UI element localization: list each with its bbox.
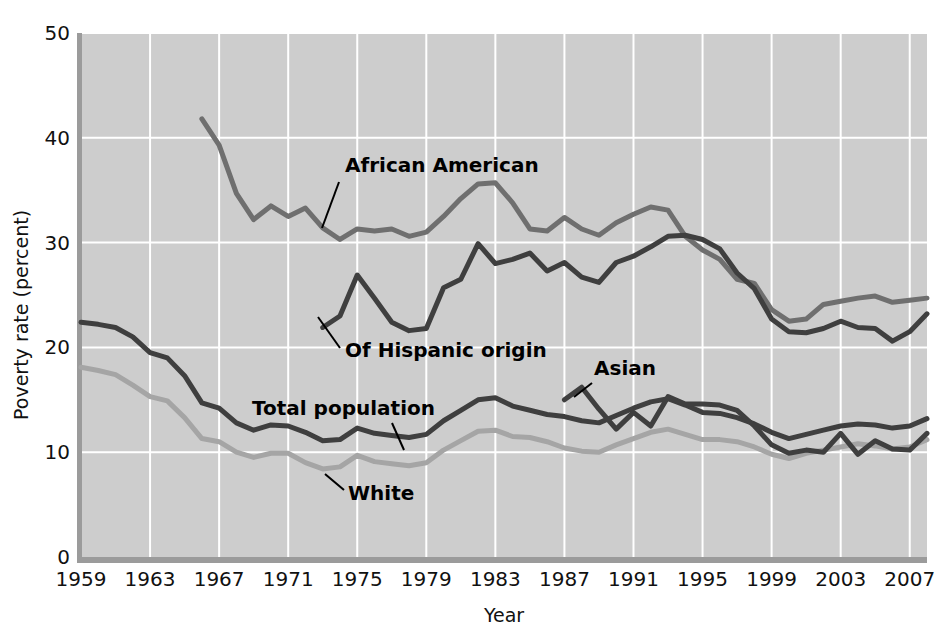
total-population-label: Total population	[252, 396, 435, 420]
x-tick-label: 1999	[746, 567, 797, 591]
y-tick-label: 10	[45, 440, 70, 464]
x-tick-label: 1983	[470, 567, 521, 591]
asian-label: Asian	[594, 356, 656, 380]
x-tick-label: 1959	[56, 567, 107, 591]
x-tick-label: 2003	[815, 567, 866, 591]
x-tick-label: 1995	[677, 567, 728, 591]
plot-background	[81, 33, 927, 558]
of-hispanic-origin-label: Of Hispanic origin	[345, 338, 547, 362]
chart-canvas: African AmericanOf Hispanic originTotal …	[0, 0, 952, 632]
y-tick-label: 0	[57, 545, 70, 569]
african-american-label: African American	[345, 153, 539, 177]
y-axis-title: Poverty rate (percent)	[10, 210, 32, 420]
white-label: White	[348, 481, 414, 505]
x-tick-label: 1971	[263, 567, 314, 591]
y-tick-label: 40	[45, 126, 70, 150]
y-tick-label: 30	[45, 231, 70, 255]
x-axis-title: Year	[483, 604, 524, 626]
plot-left-edge-shadow	[77, 33, 82, 562]
x-tick-label: 1987	[539, 567, 590, 591]
x-tick-label: 1975	[332, 567, 383, 591]
y-tick-label: 50	[45, 21, 70, 45]
plot-bottom-edge-shadow	[77, 557, 927, 563]
x-tick-label: 1991	[608, 567, 659, 591]
plot-area: African AmericanOf Hispanic originTotal …	[77, 33, 927, 563]
x-tick-label: 1967	[194, 567, 245, 591]
x-tick-label: 1963	[125, 567, 176, 591]
poverty-rate-chart-figure: African AmericanOf Hispanic originTotal …	[0, 0, 952, 632]
y-tick-label: 20	[45, 335, 70, 359]
x-tick-label: 1979	[401, 567, 452, 591]
x-tick-label: 2007	[884, 567, 935, 591]
